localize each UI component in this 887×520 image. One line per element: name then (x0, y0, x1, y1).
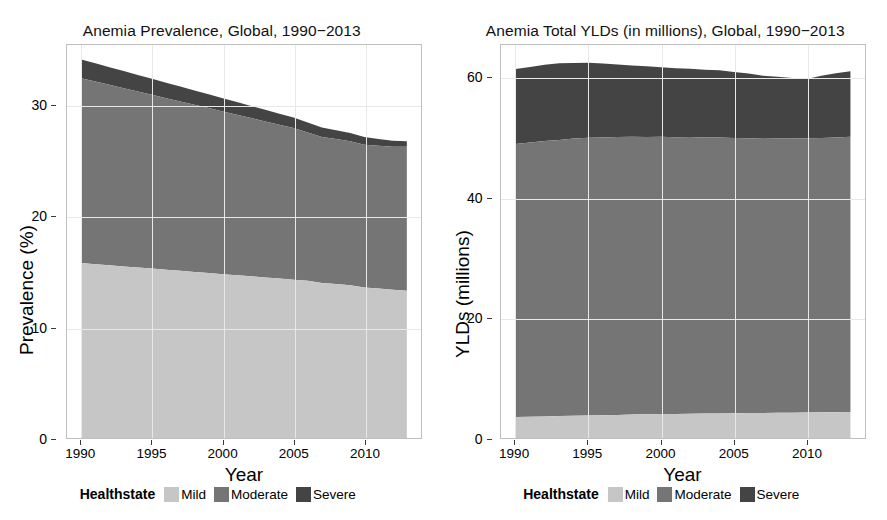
gridline-vertical (224, 45, 225, 438)
gridline-vertical (366, 45, 367, 438)
legend-label-severe: Severe (757, 487, 800, 502)
x-tick-label: 2000 (208, 447, 238, 461)
plot-area-prevalence (66, 44, 422, 439)
legend-item-moderate[interactable]: Moderate (214, 487, 294, 502)
y-tick-mark (51, 216, 56, 217)
legend-item-mild[interactable]: Mild (164, 487, 212, 502)
x-tick-label: 1990 (65, 447, 95, 461)
x-tick-mark (734, 440, 735, 445)
y-tick-label: 0 (475, 432, 483, 446)
chart-panel-ylds: Anemia Total YLDs (in millions), Global,… (444, 0, 887, 520)
y-tick-label: 30 (31, 98, 47, 112)
gridline-horizontal (67, 217, 421, 218)
area-band-severe (515, 63, 850, 144)
x-tick-mark (294, 440, 295, 445)
area-band-mild (515, 412, 850, 438)
gridline-vertical (515, 45, 516, 438)
y-tick-mark (487, 77, 492, 78)
area-band-mild (81, 263, 407, 438)
legend-item-severe[interactable]: Severe (740, 487, 806, 502)
chart-title-prevalence: Anemia Prevalence, Global, 1990−2013 (0, 22, 444, 40)
x-tick-mark (80, 440, 81, 445)
legend-swatch-moderate (214, 487, 229, 502)
legend-label-mild: Mild (625, 487, 650, 502)
x-tick-label: 2010 (792, 447, 822, 461)
legend-item-mild[interactable]: Mild (608, 487, 656, 502)
gridline-vertical (662, 45, 663, 438)
legend-title-ylds: Healthstate (523, 487, 598, 502)
y-tick-mark (51, 439, 56, 440)
x-tick-label: 2005 (719, 447, 749, 461)
y-tick-label: 20 (31, 209, 47, 223)
gridline-vertical (295, 45, 296, 438)
plot-area-ylds (500, 44, 866, 439)
x-tick-label: 1990 (499, 447, 529, 461)
gridline-horizontal (501, 199, 865, 200)
x-tick-mark (223, 440, 224, 445)
y-axis-title-ylds: YLDs (millions) (452, 230, 474, 358)
gridline-horizontal (67, 329, 421, 330)
y-tick-mark (51, 328, 56, 329)
legend-swatch-moderate (657, 487, 672, 502)
chart-title-ylds: Anemia Total YLDs (in millions), Global,… (444, 22, 887, 40)
y-tick-label: 60 (467, 70, 483, 84)
y-tick-mark (487, 318, 492, 319)
legend-title-prevalence: Healthstate (80, 487, 155, 502)
gridline-vertical (152, 45, 153, 438)
x-tick-label: 2000 (646, 447, 676, 461)
y-tick-label: 40 (467, 191, 483, 205)
x-tick-mark (514, 440, 515, 445)
y-tick-label: 0 (39, 432, 47, 446)
x-tick-mark (587, 440, 588, 445)
figure-root: Anemia Prevalence, Global, 1990−2013 010… (0, 0, 887, 520)
legend-swatch-mild (608, 487, 623, 502)
y-axis-title-prevalence: Prevalence (%) (16, 225, 38, 355)
x-tick-mark (365, 440, 366, 445)
legend-label-moderate: Moderate (674, 487, 731, 502)
legend-swatch-severe (740, 487, 755, 502)
x-tick-label: 2005 (279, 447, 309, 461)
chart-panel-prevalence: Anemia Prevalence, Global, 1990−2013 010… (0, 0, 444, 520)
legend-swatch-mild (164, 487, 179, 502)
gridline-horizontal (67, 106, 421, 107)
x-tick-label: 1995 (572, 447, 602, 461)
gridline-vertical (81, 45, 82, 438)
gridline-vertical (735, 45, 736, 438)
gridline-horizontal (501, 78, 865, 79)
legend-swatch-severe (296, 487, 311, 502)
area-band-moderate (515, 137, 850, 417)
legend-prevalence: Healthstate Mild Moderate Severe (0, 487, 444, 502)
gridline-vertical (588, 45, 589, 438)
legend-item-moderate[interactable]: Moderate (657, 487, 737, 502)
legend-item-severe[interactable]: Severe (296, 487, 362, 502)
x-tick-mark (661, 440, 662, 445)
legend-label-severe: Severe (313, 487, 356, 502)
y-tick-mark (487, 439, 492, 440)
legend-label-mild: Mild (181, 487, 206, 502)
x-tick-label: 1995 (136, 447, 166, 461)
stacked-area-prevalence (67, 45, 421, 438)
stacked-area-ylds (501, 45, 865, 438)
y-tick-mark (487, 198, 492, 199)
gridline-horizontal (501, 319, 865, 320)
x-axis-title-ylds: Year (500, 464, 866, 486)
legend-ylds: Healthstate Mild Moderate Severe (444, 487, 887, 502)
x-tick-mark (807, 440, 808, 445)
x-axis-title-prevalence: Year (66, 464, 422, 486)
gridline-vertical (808, 45, 809, 438)
y-tick-mark (51, 105, 56, 106)
x-tick-mark (151, 440, 152, 445)
legend-label-moderate: Moderate (231, 487, 288, 502)
x-tick-label: 2010 (350, 447, 380, 461)
